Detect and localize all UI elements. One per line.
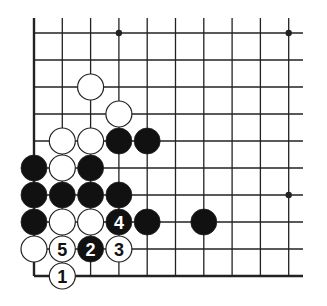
white-stone (78, 209, 104, 235)
black-stone (21, 155, 47, 181)
black-stone (106, 128, 132, 154)
black-stone (78, 155, 104, 181)
white-stone (106, 101, 132, 127)
white-stone (21, 236, 47, 262)
move-number-label: 5 (57, 240, 67, 260)
white-stone (49, 155, 75, 181)
white-stone: 1 (49, 263, 75, 289)
black-stone (78, 182, 104, 208)
black-stone (134, 128, 160, 154)
go-board: 45231 (0, 0, 327, 306)
move-number-label: 1 (57, 267, 67, 287)
black-stone (191, 209, 217, 235)
move-number-label: 2 (86, 240, 96, 260)
black-stone (49, 182, 75, 208)
star-point (286, 192, 292, 198)
star-point (286, 30, 292, 36)
black-stone (21, 209, 47, 235)
black-stone (21, 182, 47, 208)
black-stone (134, 209, 160, 235)
white-stone (78, 128, 104, 154)
white-stone (49, 128, 75, 154)
move-number-label: 3 (114, 240, 124, 260)
white-stone: 3 (106, 236, 132, 262)
white-stone: 5 (49, 236, 75, 262)
black-stone: 4 (106, 209, 132, 235)
white-stone (49, 209, 75, 235)
black-stone: 2 (78, 236, 104, 262)
white-stone (78, 74, 104, 100)
star-point (116, 30, 122, 36)
black-stone (106, 182, 132, 208)
move-number-label: 4 (114, 213, 124, 233)
